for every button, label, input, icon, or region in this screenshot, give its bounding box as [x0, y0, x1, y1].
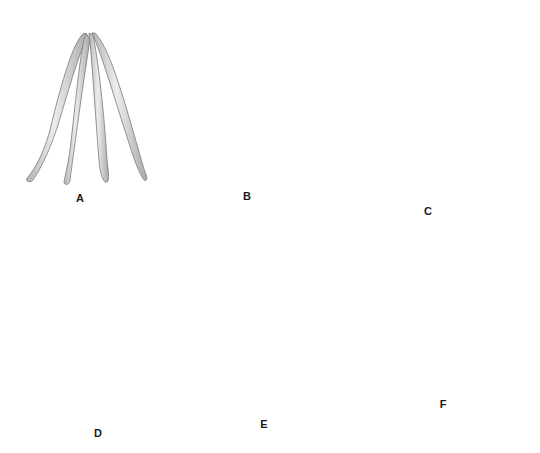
panel-label-b: B: [243, 190, 251, 202]
panel-a-strands: [27, 33, 147, 184]
panel-label-d: D: [94, 427, 102, 439]
braid-diagram: [0, 0, 540, 453]
panel-label-e: E: [260, 418, 267, 430]
panel-label-a: A: [76, 192, 84, 204]
panel-label-f: F: [440, 398, 447, 410]
panel-label-c: C: [424, 205, 432, 217]
